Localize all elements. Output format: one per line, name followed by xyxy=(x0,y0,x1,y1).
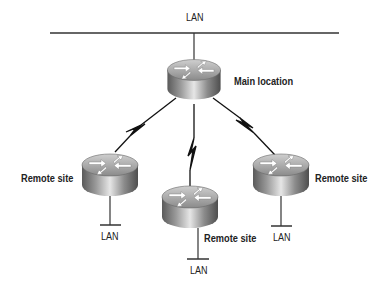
main-location-label: Main location xyxy=(234,75,293,87)
network-diagram: LAN Main location Remote site LAN Remote… xyxy=(0,0,382,291)
top-lan-label: LAN xyxy=(186,12,204,23)
remote-right-label: Remote site xyxy=(315,172,367,184)
main-router-icon xyxy=(167,60,220,100)
remote-left-lan-label: LAN xyxy=(101,231,119,242)
wan-link-center xyxy=(188,104,196,188)
remote-left-router-icon xyxy=(82,154,138,196)
remote-left-label: Remote site xyxy=(21,172,73,184)
remote-right-router-icon xyxy=(253,154,309,196)
diagram-canvas xyxy=(0,0,382,291)
remote-center-lan-label: LAN xyxy=(190,265,208,276)
wan-link-right xyxy=(213,98,275,155)
wan-link-left xyxy=(115,98,176,152)
remote-center-router-icon xyxy=(162,186,218,228)
remote-center-label: Remote site xyxy=(204,232,256,244)
remote-right-lan-label: LAN xyxy=(273,232,291,243)
